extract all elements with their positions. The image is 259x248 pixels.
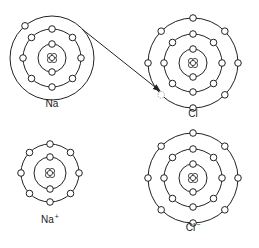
electron — [235, 175, 242, 182]
electron — [26, 149, 33, 156]
label-cl-ion: Cl− — [186, 221, 201, 233]
electron — [169, 39, 176, 46]
electron — [28, 75, 35, 82]
electron — [219, 175, 226, 182]
electron — [145, 175, 152, 182]
electron — [67, 149, 74, 156]
electron — [190, 161, 197, 168]
nucleus — [45, 168, 54, 177]
label-na-ion: Na+ — [41, 213, 59, 225]
electron — [210, 80, 217, 87]
electron — [22, 23, 29, 30]
electron — [222, 28, 229, 35]
electron — [222, 207, 229, 214]
electron — [210, 195, 217, 202]
electron — [210, 39, 217, 46]
label-cl-ion-text: Cl — [186, 222, 195, 233]
electron — [47, 186, 54, 193]
electron — [20, 55, 27, 62]
electron — [158, 28, 165, 35]
electron — [169, 154, 176, 161]
label-na-ion-text: Na — [41, 214, 54, 225]
electron — [28, 34, 35, 41]
electron — [49, 69, 56, 76]
ionic-bond-diagram — [0, 0, 259, 248]
nucleus — [188, 173, 197, 182]
electron — [219, 60, 226, 67]
electron — [49, 84, 56, 91]
electron — [26, 190, 33, 197]
electron — [145, 60, 152, 67]
electron — [158, 143, 165, 150]
electron — [76, 170, 83, 177]
electron — [47, 199, 54, 206]
electron — [161, 60, 168, 67]
electron — [69, 75, 76, 82]
electron — [190, 189, 197, 196]
electron — [158, 207, 165, 214]
electron — [67, 190, 74, 197]
atom-na-ion — [18, 141, 83, 206]
label-cl-ion-charge: − — [196, 221, 200, 228]
electron — [49, 26, 56, 33]
electron — [222, 143, 229, 150]
electron-vacancy — [158, 92, 165, 99]
electron — [169, 80, 176, 87]
electron — [190, 31, 197, 38]
atom-cl — [145, 15, 242, 112]
label-na-ion-charge: + — [55, 213, 59, 220]
electron — [161, 175, 168, 182]
electron — [47, 154, 54, 161]
electron — [222, 92, 229, 99]
nucleus — [188, 58, 197, 67]
electron — [169, 195, 176, 202]
label-cl-text: Cl — [188, 108, 197, 119]
electron — [190, 15, 197, 22]
electron — [47, 141, 54, 148]
atom-cl-ion — [145, 130, 242, 227]
electron — [190, 89, 197, 96]
label-cl: Cl — [188, 108, 197, 119]
electron — [190, 130, 197, 137]
electron — [190, 74, 197, 81]
electron — [190, 146, 197, 153]
electron — [190, 204, 197, 211]
electron — [190, 46, 197, 53]
label-na: Na — [46, 98, 59, 109]
electron — [49, 41, 56, 48]
atom-na — [10, 16, 94, 100]
electron — [78, 55, 85, 62]
label-na-text: Na — [46, 98, 59, 109]
nucleus — [47, 53, 56, 62]
electron — [210, 154, 217, 161]
electron — [18, 170, 25, 177]
electron — [235, 60, 242, 67]
electron — [69, 34, 76, 41]
